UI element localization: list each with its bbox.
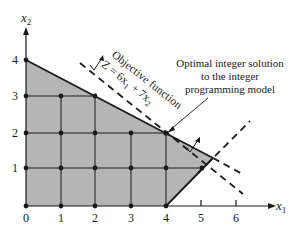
x-tick-5: 5 (198, 211, 204, 225)
svg-text:Optimal integer solution: Optimal integer solution (176, 57, 284, 69)
x-tick-3: 3 (128, 211, 134, 225)
y-tick-2: 2 (12, 126, 18, 140)
y-tick-3: 3 (12, 89, 18, 103)
y-tick-1: 1 (12, 161, 18, 175)
x-tick-0: 0 (23, 211, 29, 225)
integer-programming-diagram: 0 1 2 3 4 5 6 1 2 3 4 x2 x1 Objective fu… (0, 0, 297, 231)
svg-text:to the integer: to the integer (201, 70, 259, 82)
x-tick-2: 2 (92, 211, 98, 225)
x-tick-labels: 0 1 2 3 4 5 6 (23, 211, 239, 225)
y-tick-4: 4 (12, 53, 18, 67)
optimal-solution-annotation: Optimal integer solution to the integer … (176, 57, 284, 95)
y-tick-labels: 1 2 3 4 (12, 53, 18, 175)
svg-text:programming model: programming model (185, 83, 275, 95)
x-axis-label: x1 (275, 198, 286, 215)
x-tick-1: 1 (58, 211, 64, 225)
x-tick-4: 4 (163, 211, 169, 225)
x-tick-6: 6 (233, 211, 239, 225)
y-axis-label: x2 (20, 10, 31, 27)
